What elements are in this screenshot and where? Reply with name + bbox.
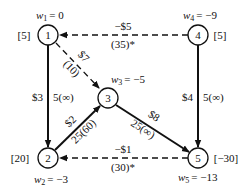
potential-node-2: w2= −3 <box>34 173 69 187</box>
edge-5-2-flow: (30)* <box>111 161 135 174</box>
edge-1-3-flow: (10) <box>60 57 82 79</box>
supply-node-1: [5] <box>18 29 31 41</box>
potential-node-3: w3= −5 <box>111 73 146 87</box>
supply-node-4: [5] <box>214 29 227 41</box>
potential-node-1: w1= 0 <box>36 9 64 23</box>
node-label: 1 <box>45 29 51 41</box>
edge-4-5-cost: $4 <box>182 91 194 103</box>
node-label: 3 <box>105 92 111 104</box>
edge-5-2-cost: −$1 <box>114 143 131 155</box>
edge-4-1-flow: (35)* <box>111 38 135 51</box>
node-4: 4 <box>188 25 208 45</box>
edge-3-5-cost: $8 <box>146 108 162 124</box>
potential-node-4: w4= −9 <box>183 9 218 23</box>
edge-4-5-flow: 5(∞) <box>203 91 224 104</box>
edge-2-3-cost: $2 <box>62 113 78 129</box>
edge-4-1-cost: −$5 <box>114 20 132 32</box>
edge-1-3-cost: $7 <box>76 48 93 65</box>
edge-1-2-cost: $3 <box>32 91 44 103</box>
potential-node-5: w5= −13 <box>178 171 218 185</box>
node-label: 2 <box>45 152 51 164</box>
edge-1-2-flow: 5(∞) <box>53 91 74 104</box>
node-2: 2 <box>38 148 58 168</box>
node-label: 5 <box>195 152 201 164</box>
supply-node-5: [−30] <box>214 152 239 164</box>
network-diagram: 1 2 3 4 5 [5] [20] [5] [−30] w1= 0 w2= −… <box>0 0 248 191</box>
node-label: 4 <box>195 29 201 41</box>
node-3: 3 <box>98 88 118 108</box>
supply-node-2: [20] <box>11 152 29 164</box>
node-1: 1 <box>38 25 58 45</box>
node-5: 5 <box>188 148 208 168</box>
